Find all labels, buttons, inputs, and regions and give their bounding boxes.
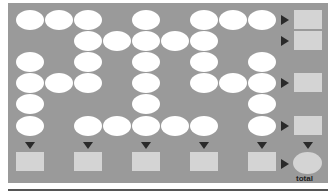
grid-oval [161,116,189,136]
arrow-right-icon [281,15,289,25]
arrow-right-icon [281,159,289,169]
column-sum-box [74,152,102,171]
grid-oval [190,116,218,136]
row-sum-box [294,116,322,135]
diagram-panel [8,3,328,183]
arrow-down-icon [257,142,267,149]
column-sum-box [132,152,160,171]
grid-oval [45,73,73,93]
grid-oval [103,31,131,51]
arrow-down-icon [141,142,151,149]
grid-oval [16,116,44,136]
grid-oval [132,52,160,72]
grid-oval [132,10,160,30]
grid-oval [132,94,160,114]
arrow-down-icon [199,142,209,149]
column-sum-box [16,152,44,171]
arrow-down-icon [25,142,35,149]
grid-oval [132,73,160,93]
grid-oval [219,73,247,93]
row-sum-box [294,10,322,29]
grid-oval [248,52,276,72]
grid-oval [74,52,102,72]
arrow-right-icon [281,36,289,46]
arrow-right-icon [281,78,289,88]
grid-oval [190,10,218,30]
row-sum-box [294,31,322,50]
column-sum-box [248,152,276,171]
arrow-right-icon [281,121,289,131]
grid-oval [190,31,218,51]
grid-oval [190,73,218,93]
grid-oval [132,116,160,136]
arrow-down-icon [83,142,93,149]
grid-oval [74,73,102,93]
grid-oval [16,52,44,72]
grid-oval [248,116,276,136]
total-cell [293,152,322,174]
grid-oval [74,116,102,136]
grid-oval [248,73,276,93]
total-label: total [296,174,313,183]
grid-oval [74,31,102,51]
grid-oval [16,10,44,30]
grid-oval [132,31,160,51]
grid-oval [190,52,218,72]
grid-oval [103,116,131,136]
column-sum-box [190,152,218,171]
grid-oval [74,10,102,30]
grid-oval [16,94,44,114]
grid-oval [45,10,73,30]
grid-oval [16,73,44,93]
grid-oval [248,94,276,114]
grid-oval [161,31,189,51]
arrow-down-icon [303,142,313,149]
row-sum-box [294,73,322,92]
grid-oval [248,10,276,30]
grid-oval [219,10,247,30]
divider [8,189,328,191]
